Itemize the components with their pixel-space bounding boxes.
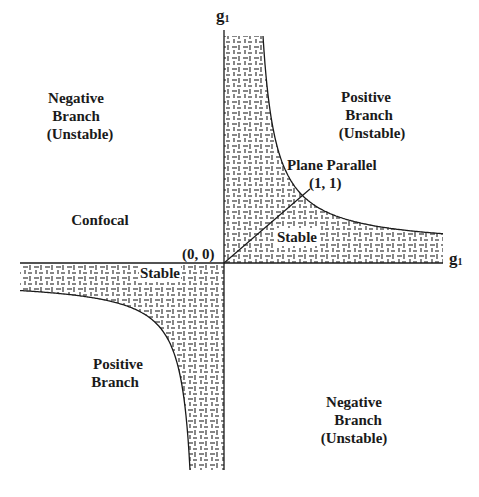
label-line: Branch (28, 107, 124, 125)
vertical-axis-subscript: 1 (225, 13, 230, 24)
label-line: (Unstable) (318, 124, 414, 142)
horizontal-axis-label: g1 (449, 249, 463, 269)
horizontal-axis-subscript: 1 (458, 256, 463, 267)
plane-parallel-label: Plane Parallel (287, 156, 377, 174)
label-line: Positive (72, 355, 158, 373)
origin-label: (0, 0) (182, 245, 215, 263)
stable-label-lower: Stable (139, 264, 181, 282)
region-label-top-left: Negative Branch (Unstable) (28, 89, 124, 143)
label-line: (Unstable) (306, 429, 402, 447)
label-line: Positive (318, 88, 414, 106)
stability-diagram (0, 0, 479, 497)
label-line: (Unstable) (28, 125, 124, 143)
horizontal-axis-symbol: g (449, 249, 458, 268)
stable-label-upper: Stable (276, 228, 318, 246)
label-line: Negative (306, 393, 402, 411)
stable-region-upper-right (224, 36, 443, 263)
region-label-bottom-left: Positive Branch (72, 355, 158, 391)
region-label-top-right: Positive Branch (Unstable) (318, 88, 414, 142)
region-label-confocal: Confocal (60, 211, 140, 229)
label-line: Branch (306, 411, 402, 429)
plane-parallel-point-label: (1, 1) (309, 174, 342, 192)
label-line: Branch (72, 373, 158, 391)
vertical-axis-symbol: g (216, 6, 225, 25)
label-line: Confocal (60, 211, 140, 229)
label-line: Negative (28, 89, 124, 107)
vertical-axis-label: g1 (216, 6, 230, 26)
label-line: Branch (318, 106, 414, 124)
region-label-bottom-right: Negative Branch (Unstable) (306, 393, 402, 447)
